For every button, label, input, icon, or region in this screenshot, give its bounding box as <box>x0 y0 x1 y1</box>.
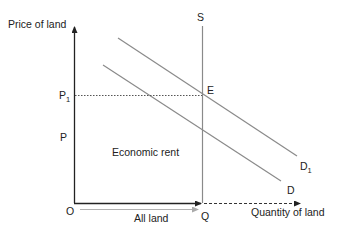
demand-d-label: D <box>287 185 295 196</box>
demand-curve-d <box>103 65 281 181</box>
x-axis-label: Quantity of land <box>251 207 325 218</box>
demand-curve-d1 <box>118 38 297 156</box>
all-land-label: All land <box>134 213 168 224</box>
demand-d1-label: D1 <box>300 161 312 175</box>
supply-label: S <box>197 12 204 23</box>
economic-rent-diagram <box>0 0 337 236</box>
price-p1-label: P1 <box>59 90 70 104</box>
y-axis-label: Price of land <box>8 19 66 30</box>
equilibrium-label: E <box>207 85 214 96</box>
price-p-label: P <box>60 132 67 143</box>
origin-label: O <box>66 206 74 217</box>
quantity-q-label: Q <box>201 211 209 222</box>
economic-rent-label: Economic rent <box>112 147 179 158</box>
